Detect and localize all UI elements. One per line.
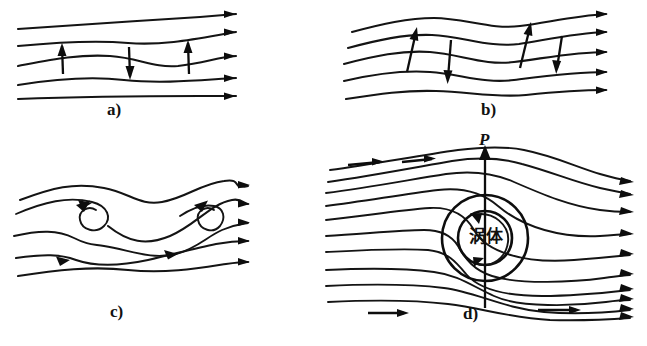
streamline — [344, 71, 606, 81]
arrowhead-icon — [619, 190, 634, 198]
streamline — [326, 172, 630, 212]
vortex-body-label: 涡体 — [459, 226, 513, 246]
arrowhead-icon — [238, 258, 250, 266]
streamline — [18, 32, 236, 46]
arrowhead-icon — [596, 87, 608, 95]
arrowhead-icon — [238, 219, 250, 227]
streamline — [18, 56, 236, 67]
arrowhead-icon — [410, 27, 419, 41]
panel-a-perturbation-arrows — [58, 40, 193, 80]
panel-a-diagram — [0, 0, 324, 130]
streamline — [344, 52, 606, 64]
panel-c-caption: c) — [110, 302, 123, 322]
panel-c-streamlines — [14, 181, 250, 276]
arrowhead-icon — [552, 60, 561, 74]
streamline — [352, 14, 606, 32]
panel-c-diagram — [0, 150, 324, 346]
arrowhead-icon — [424, 155, 436, 163]
arrowhead-icon — [619, 229, 634, 237]
arrowhead-icon — [126, 66, 135, 80]
panel-b-caption: b) — [481, 100, 496, 120]
arrowhead-icon — [397, 309, 409, 317]
arrowhead-icon — [596, 29, 608, 37]
arrowhead-icon — [470, 213, 482, 224]
arrowhead-icon — [238, 237, 250, 245]
figure-root: P 涡体 a) b) c) d) — [0, 0, 647, 346]
arrowhead-icon — [224, 93, 236, 101]
arrowhead-icon — [224, 11, 236, 19]
streamline — [18, 14, 236, 29]
arrowhead-icon — [619, 207, 634, 215]
streamline — [326, 269, 630, 305]
arrowhead-icon — [224, 29, 236, 37]
arrowhead-icon — [224, 75, 236, 83]
arrowhead-icon — [596, 69, 608, 77]
arrowhead-icon — [58, 43, 67, 56]
streamline-mid-upper — [108, 200, 248, 242]
streamline-rollup-left — [16, 200, 108, 231]
streamline-top — [20, 181, 248, 203]
panel-a-streamlines — [18, 11, 236, 101]
arrowhead-icon — [372, 158, 384, 166]
force-vector-label: P — [479, 130, 489, 150]
arrowhead-icon — [224, 53, 236, 61]
arrowhead-icon — [619, 177, 634, 185]
arrowhead-icon — [184, 40, 193, 53]
arrowhead-icon — [444, 70, 453, 84]
streamline — [18, 78, 236, 85]
arrowhead-icon — [596, 11, 608, 19]
streamline-bottom — [18, 262, 248, 276]
streamline — [348, 32, 606, 48]
arrowhead-icon — [164, 250, 178, 260]
streamline — [346, 90, 606, 99]
panel-a-caption: a) — [107, 100, 121, 120]
panel-d-caption: d) — [463, 304, 478, 324]
arrowhead-icon — [596, 49, 608, 57]
panel-b-streamlines — [344, 11, 608, 100]
streamline — [18, 96, 236, 99]
